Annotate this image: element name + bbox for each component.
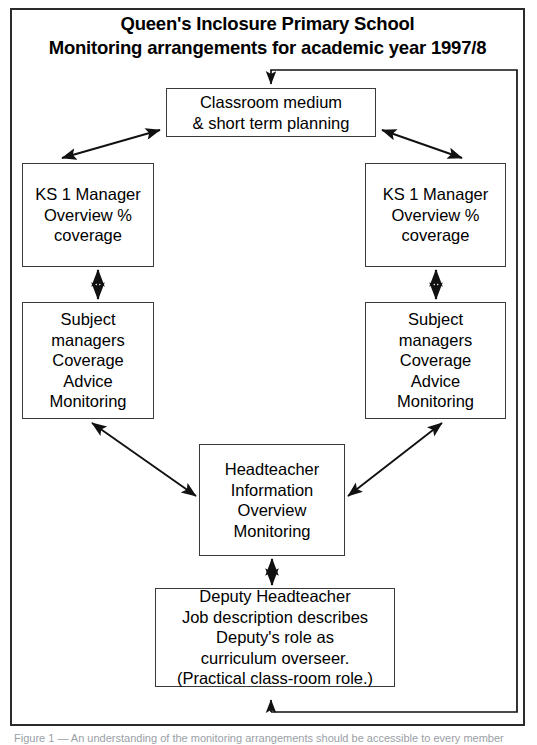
node-line: & short term planning	[193, 113, 350, 134]
node-line: Headteacher	[225, 459, 319, 480]
node-line: Deputy's role as	[216, 627, 334, 648]
node-line: Coverage	[400, 350, 472, 371]
node-line: Advice	[63, 371, 113, 392]
node-deputy-headteacher[interactable]: Deputy Headteacher Job description descr…	[155, 588, 395, 687]
node-line: managers	[399, 330, 472, 351]
node-classroom-planning[interactable]: Classroom medium & short term planning	[166, 88, 376, 137]
node-line: curriculum overseer.	[201, 648, 350, 669]
node-ks1-manager-left[interactable]: KS 1 Manager Overview % coverage	[22, 163, 154, 267]
node-line: Overview %	[44, 205, 132, 226]
node-line: Deputy Headteacher	[199, 586, 350, 607]
node-line: Classroom medium	[200, 92, 342, 113]
node-line: Subject	[408, 309, 463, 330]
node-ks1-manager-right[interactable]: KS 1 Manager Overview % coverage	[365, 163, 506, 267]
node-line: KS 1 Manager	[35, 184, 140, 205]
node-subject-managers-left[interactable]: Subject managers Coverage Advice Monitor…	[22, 302, 154, 419]
node-subject-managers-right[interactable]: Subject managers Coverage Advice Monitor…	[365, 302, 506, 419]
node-line: Coverage	[52, 350, 124, 371]
node-line: Monitoring	[233, 521, 310, 542]
node-line: Monitoring	[397, 391, 474, 412]
node-headteacher[interactable]: Headteacher Information Overview Monitor…	[199, 444, 345, 556]
title-line-1: Queen's Inclosure Primary School	[14, 12, 521, 36]
node-line: KS 1 Manager	[383, 184, 488, 205]
figure-caption: Figure 1 — An understanding of the monit…	[14, 731, 519, 745]
node-line: Monitoring	[49, 391, 126, 412]
node-line: Overview %	[391, 205, 479, 226]
node-line: coverage	[402, 225, 470, 246]
node-line: Advice	[411, 371, 461, 392]
node-line: Job description describes	[182, 607, 368, 628]
node-line: (Practical class-room role.)	[177, 668, 373, 689]
node-line: Subject	[60, 309, 115, 330]
node-line: Overview	[238, 500, 307, 521]
page-title: Queen's Inclosure Primary School Monitor…	[14, 12, 521, 60]
node-line: Information	[231, 480, 314, 501]
node-line: managers	[51, 330, 124, 351]
title-line-2: Monitoring arrangements for academic yea…	[14, 36, 521, 60]
node-line: coverage	[54, 225, 122, 246]
